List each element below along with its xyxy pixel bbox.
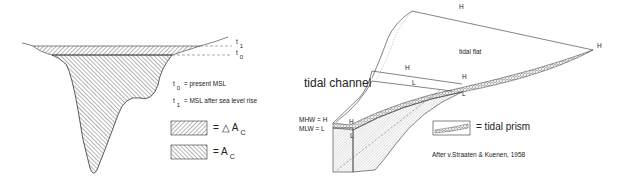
t1-level-label: t1	[236, 38, 243, 45]
tidal-channel-title: tidal channel	[304, 76, 371, 90]
legend-ac: = AC	[213, 146, 235, 157]
h-marker-mid: H	[462, 73, 467, 80]
h-marker-right: H	[597, 42, 602, 49]
l-marker-front: L	[350, 132, 354, 139]
citation: After v.Straaten & Kuenen, 1958	[432, 151, 525, 158]
legend-delta-ac: = △ AC	[213, 122, 246, 133]
tidal-prism-legend: = tidal prism	[476, 121, 530, 132]
legend-t1: t1 = MSL after sea level rise	[173, 97, 257, 104]
mhw-label: MHW = H	[299, 116, 327, 123]
mlw-label: MLW = L	[299, 125, 325, 132]
l-marker-left: L	[412, 79, 416, 86]
cross-section	[22, 37, 232, 173]
h-marker-left: H	[405, 64, 410, 71]
l-marker-mid: L	[462, 90, 466, 97]
t0-level-label: t0	[236, 49, 243, 56]
h-marker-top: H	[459, 3, 464, 10]
diagram-canvas	[0, 0, 624, 180]
tidal-flat-label: tidal flat	[459, 48, 481, 55]
h-marker-front: H	[349, 118, 354, 125]
legend-t0: t0 = present MSL	[173, 80, 226, 87]
